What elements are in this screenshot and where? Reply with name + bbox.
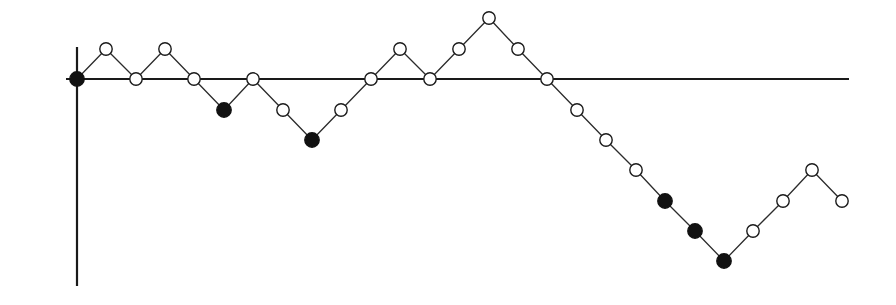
walk-markers-group <box>70 12 848 268</box>
record-minimum-marker <box>658 194 672 208</box>
walk-point-marker <box>100 43 112 55</box>
walk-point-marker <box>424 73 436 85</box>
walk-point-marker <box>600 134 612 146</box>
walk-point-marker <box>747 225 759 237</box>
walk-point-marker <box>806 164 818 176</box>
record-minimum-marker <box>305 133 319 147</box>
record-minimum-marker <box>70 72 84 86</box>
walk-point-marker <box>159 43 171 55</box>
random-walk-figure <box>0 0 896 305</box>
walk-point-marker <box>483 12 495 24</box>
walk-point-marker <box>247 73 259 85</box>
record-minimum-marker <box>688 224 702 238</box>
plot-canvas <box>0 0 896 305</box>
walk-point-marker <box>512 43 524 55</box>
walk-point-marker <box>571 104 583 116</box>
walk-point-marker <box>130 73 142 85</box>
walk-point-marker <box>453 43 465 55</box>
walk-point-marker <box>277 104 289 116</box>
walk-point-marker <box>188 73 200 85</box>
axes-group <box>66 47 849 286</box>
record-minimum-marker <box>717 254 731 268</box>
walk-point-marker <box>365 73 377 85</box>
walk-point-marker <box>630 164 642 176</box>
record-minimum-marker <box>217 103 231 117</box>
walk-point-marker <box>777 195 789 207</box>
walk-point-marker <box>836 195 848 207</box>
walk-point-marker <box>541 73 553 85</box>
walk-point-marker <box>335 104 347 116</box>
walk-point-marker <box>394 43 406 55</box>
